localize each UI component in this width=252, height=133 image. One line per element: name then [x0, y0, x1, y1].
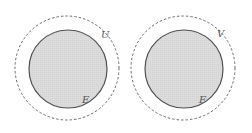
inner-set-e-circle	[29, 30, 107, 108]
set-group-v: V F	[131, 16, 235, 120]
inner-set-f-circle	[145, 30, 223, 108]
label-u: U	[101, 29, 110, 40]
label-f: F	[198, 94, 207, 105]
venn-diagram: U E V F	[0, 0, 252, 133]
label-e: E	[81, 94, 90, 105]
set-group-u: U E	[15, 16, 119, 120]
